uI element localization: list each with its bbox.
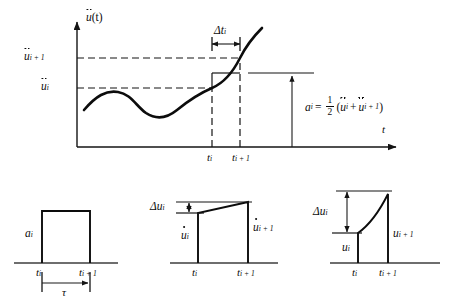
- equation-plus: +: [350, 101, 357, 113]
- equation-fraction-one-half: 1 2: [326, 96, 334, 118]
- xtick-right-sub: i + 1: [235, 154, 250, 163]
- panel-3-delta-dimension: [332, 191, 392, 233]
- equation-close-paren: ): [379, 101, 383, 113]
- panel-2-delta-sub: i: [163, 203, 165, 212]
- u-doubledot-glyph-lower: u: [41, 81, 47, 93]
- equation-lhs-sub: i: [311, 102, 313, 111]
- panel-3-left-label: ui: [342, 242, 350, 254]
- ytick-label-upper-sub: i + 1: [30, 53, 45, 62]
- panel-3-xtick-left: ti: [352, 267, 357, 278]
- u-doubledot-glyph-upper: u: [24, 51, 30, 63]
- ytick-label-upper: ui + 1: [24, 51, 45, 63]
- panel-2-right-label: ui + 1: [253, 222, 274, 234]
- panel-2-t-left-sub: i: [195, 269, 197, 278]
- equation-term1-sub: i: [346, 102, 348, 111]
- panel-2-delta-label: Δui: [150, 201, 165, 213]
- ytick-label-lower: ui: [41, 81, 49, 93]
- panel-2-left-sub: i: [187, 232, 189, 241]
- delta-t-sub: i: [224, 27, 226, 36]
- panel-1-rectangle: [42, 211, 90, 263]
- panel-2-left-label: ui: [181, 230, 189, 242]
- panel-3-delta-symbol: Δu: [313, 205, 326, 217]
- average-acceleration-equation: ai = 1 2 (ui + ui + 1): [305, 96, 383, 118]
- fraction-denominator: 2: [328, 107, 333, 118]
- panel-2-u-dot-right: u: [253, 222, 259, 234]
- xtick-label-right: ti + 1: [232, 152, 250, 163]
- panel-2-trapezoid: [198, 202, 248, 263]
- panel-1-t-right-sub: i + 1: [82, 269, 97, 278]
- panel-2-t-right-sub: i + 1: [240, 269, 255, 278]
- delta-t-dimension: [212, 37, 240, 51]
- panel-1-t-left-sub: i: [39, 269, 41, 278]
- panel-2-right-sub: i + 1: [259, 224, 274, 233]
- panel-3-xtick-right: ti + 1: [379, 267, 397, 278]
- ytick-label-lower-sub: i: [47, 83, 49, 92]
- panel-3-t-right-sub: i + 1: [382, 269, 397, 278]
- panel-2-u-dot-left: u: [181, 230, 187, 242]
- panel-3-right-label: ui + 1: [393, 228, 414, 240]
- panel-3-parabola: [358, 194, 388, 263]
- main-xaxis-label: t: [382, 124, 385, 135]
- equation-equals: =: [315, 101, 322, 113]
- panel-1-xtick-left: ti: [36, 267, 41, 278]
- panel-2-delta-symbol: Δu: [150, 200, 163, 212]
- equation-term1-u-doubledot: u: [340, 101, 346, 113]
- delta-t-label: Δti: [214, 25, 226, 37]
- panel-2-xtick-right: ti + 1: [237, 267, 255, 278]
- panel-3-delta-label: Δui: [313, 206, 328, 218]
- panel-1-value-label: ai: [25, 228, 33, 240]
- panel-3-left-sub: i: [348, 244, 350, 253]
- main-yaxis-label-suffix: (t): [92, 11, 103, 23]
- main-yaxis-label: u(t): [86, 12, 103, 24]
- equation-term2-u-doubledot: u: [359, 101, 365, 113]
- u-doubledot-glyph: u: [86, 12, 92, 24]
- xtick-label-left: ti: [207, 152, 212, 163]
- delta-t-symbol: Δt: [214, 24, 224, 36]
- panel-3-right-sub: i + 1: [399, 230, 414, 239]
- fraction-numerator: 1: [328, 96, 333, 106]
- figure-root: u(t) t ui + 1 ui Δti ti ti + 1 ai = 1 2 …: [0, 0, 456, 303]
- panel-1-duration-label: τ: [62, 287, 66, 298]
- figure-vector-layer: [0, 0, 456, 303]
- panel-3-t-left-sub: i: [355, 269, 357, 278]
- panel-3-delta-sub: i: [326, 208, 328, 217]
- xtick-left-sub: i: [210, 154, 212, 163]
- equation-term2-sub: i + 1: [364, 102, 379, 111]
- panel-2-xtick-left: ti: [192, 267, 197, 278]
- panel-1-xtick-right: ti + 1: [79, 267, 97, 278]
- panel-1-a-sub: i: [31, 230, 33, 239]
